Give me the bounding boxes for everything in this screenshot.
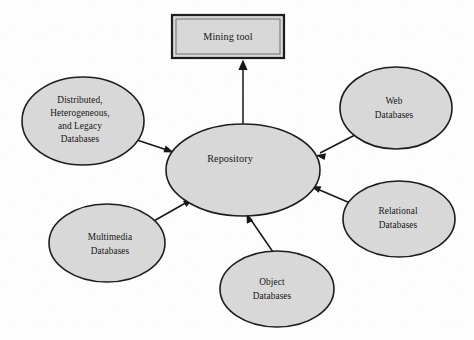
edge-distributed-to-repository <box>134 139 174 153</box>
node-relational-databases[interactable]: Relational Databases <box>343 181 455 257</box>
edge-repository-to-mining-tool <box>238 60 247 127</box>
relational-databases-label-line-2: Databases <box>379 220 418 230</box>
edge-line <box>320 135 355 153</box>
distributed-databases-label-line-1: Distributed, <box>57 95 102 105</box>
repository-label: Repository <box>207 153 254 164</box>
node-mining-tool[interactable]: Mining tool <box>172 15 284 58</box>
web-databases-label-line-1: Web <box>385 96 402 106</box>
edge-line <box>315 188 350 203</box>
object-databases-label-line-1: Object <box>259 277 285 287</box>
web-databases-label-line-2: Databases <box>375 110 414 120</box>
node-object-databases[interactable]: Object Databases <box>220 251 334 327</box>
edge-web-to-repository <box>316 135 355 160</box>
architecture-diagram: Mining tool Repository Distributed, Hete… <box>0 0 474 340</box>
relational-databases-label-line-1: Relational <box>378 206 418 216</box>
web-databases-ellipse[interactable] <box>340 67 452 149</box>
multimedia-databases-label-line-2: Databases <box>91 246 130 256</box>
distributed-databases-label-line-4: Databases <box>61 134 100 144</box>
edge-object-to-repository <box>246 213 273 252</box>
object-databases-label-line-2: Databases <box>253 291 292 301</box>
node-multimedia-databases[interactable]: Multimedia Databases <box>49 204 165 282</box>
arrowhead-icon <box>238 60 247 71</box>
mining-tool-label: Mining tool <box>203 31 253 42</box>
node-distributed-heterogeneous-legacy-databases[interactable]: Distributed, Heterogeneous, and Legacy D… <box>22 77 144 165</box>
diagram-canvas-container: Mining tool Repository Distributed, Hete… <box>0 0 474 340</box>
edge-line <box>249 217 273 252</box>
multimedia-databases-ellipse[interactable] <box>49 204 165 282</box>
node-web-databases[interactable]: Web Databases <box>340 67 452 149</box>
node-repository[interactable]: Repository <box>166 124 320 216</box>
repository-ellipse[interactable] <box>166 124 320 216</box>
multimedia-databases-label-line-1: Multimedia <box>88 232 132 242</box>
edge-relational-to-repository <box>311 186 350 203</box>
object-databases-ellipse[interactable] <box>220 251 334 327</box>
relational-databases-ellipse[interactable] <box>343 181 455 257</box>
edge-line <box>152 201 189 222</box>
distributed-databases-label-line-3: and Legacy <box>58 121 102 131</box>
distributed-databases-label-line-2: Heterogeneous, <box>50 108 109 118</box>
